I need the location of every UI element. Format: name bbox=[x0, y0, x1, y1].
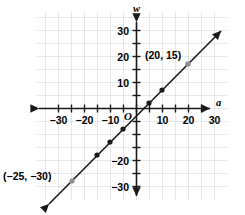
data-point-marker bbox=[159, 87, 164, 92]
y-tick-label: 20 bbox=[117, 51, 129, 63]
y-tick-label: −30 bbox=[111, 181, 129, 193]
y-tick-label: 10 bbox=[117, 77, 129, 89]
origin-label: O bbox=[124, 110, 132, 122]
x-tick-label: 20 bbox=[183, 114, 195, 126]
annotation-point-upper: (20, 15) bbox=[145, 49, 181, 61]
x-axis-label: a bbox=[216, 97, 221, 108]
y-tick-label: 30 bbox=[117, 25, 129, 37]
data-point-marker bbox=[146, 100, 151, 105]
x-tick-label: −10 bbox=[102, 114, 120, 126]
x-tick-label: 10 bbox=[157, 114, 169, 126]
data-point-marker bbox=[120, 126, 125, 131]
data-point-marker bbox=[69, 178, 74, 183]
data-point-marker bbox=[107, 139, 112, 144]
x-tick-label: −30 bbox=[50, 114, 68, 126]
graph-svg: −30 −20 −10 10 20 30 30 20 10 −20 −30 a … bbox=[0, 0, 245, 215]
data-point-marker bbox=[185, 61, 191, 67]
coordinate-graph-figure: −30 −20 −10 10 20 30 30 20 10 −20 −30 a … bbox=[0, 0, 245, 215]
grid bbox=[36, 12, 228, 200]
x-tick-label: −20 bbox=[76, 114, 94, 126]
data-point-marker bbox=[94, 152, 99, 157]
y-axis-label: w bbox=[133, 3, 141, 14]
annotation-point-lower: (−25, −30) bbox=[3, 170, 51, 182]
x-tick-labels: −30 −20 −10 10 20 30 bbox=[50, 114, 221, 126]
y-tick-label: −20 bbox=[111, 155, 129, 167]
x-tick-label: 30 bbox=[209, 114, 221, 126]
